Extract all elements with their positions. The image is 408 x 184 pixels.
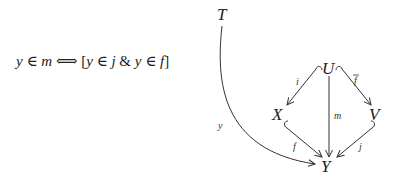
node-V: V [369, 105, 382, 124]
arrow-i [287, 66, 322, 105]
label-y: y [217, 120, 223, 131]
label-f: f [293, 141, 297, 152]
commutative-diagram: T U X V Y i f m f j y [0, 0, 408, 184]
label-j: j [357, 141, 362, 152]
arrow-f [284, 121, 322, 157]
node-T: T [217, 5, 228, 24]
arrow-j [337, 121, 375, 157]
label-i: i [296, 76, 299, 87]
node-X: X [271, 105, 283, 124]
label-fbar: f [354, 75, 358, 86]
label-m: m [334, 110, 341, 121]
node-Y: Y [321, 157, 332, 176]
arrow-y [220, 26, 315, 164]
node-U: U [322, 59, 336, 78]
